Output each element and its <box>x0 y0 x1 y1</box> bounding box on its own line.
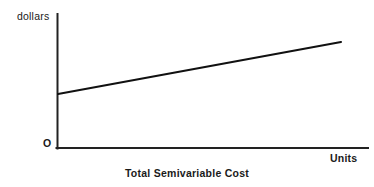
chart-caption: Total Semivariable Cost <box>0 168 374 179</box>
origin-label: O <box>43 138 51 149</box>
x-axis-label: Units <box>330 153 357 164</box>
chart-plot-area <box>0 0 374 187</box>
semivariable-cost-line <box>58 42 341 94</box>
y-axis-label: dollars <box>17 11 49 22</box>
semivariable-cost-chart: dollars O Units Total Semivariable Cost <box>0 0 374 187</box>
